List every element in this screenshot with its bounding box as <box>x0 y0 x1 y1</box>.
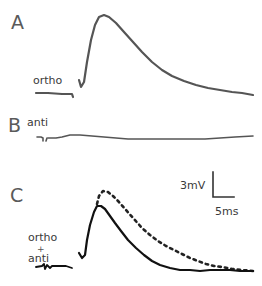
trace-a-response <box>79 15 253 95</box>
condition-label-b: anti <box>27 117 48 128</box>
panel-label-a: A <box>11 13 24 32</box>
condition-label-c-line2: anti <box>28 253 49 264</box>
panel-label-c: C <box>10 186 23 205</box>
scale-bar-voltage-label: 3mV <box>180 180 205 191</box>
panel-label-b: B <box>8 116 21 135</box>
trace-b-artifact <box>37 137 47 141</box>
scale-bar-time-label: 5ms <box>215 206 238 217</box>
scale-bar <box>213 172 234 197</box>
figure: A ortho B anti C ortho + anti 3mV 5ms <box>0 0 262 286</box>
trace-a-baseline <box>36 93 73 97</box>
condition-label-c-line1: ortho <box>28 232 57 243</box>
trace-b-response <box>48 135 253 139</box>
condition-label-a: ortho <box>33 75 62 86</box>
